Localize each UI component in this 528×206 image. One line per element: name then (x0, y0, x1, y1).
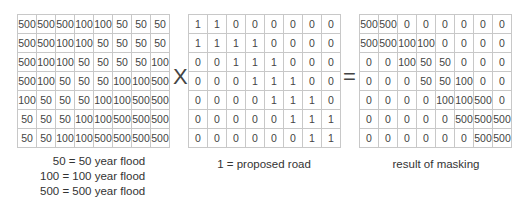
grid-cell: 0 (379, 91, 398, 110)
grid-row: 00001110 (189, 91, 341, 110)
grid-cell: 100 (455, 72, 474, 91)
grid-cell: 500 (379, 15, 398, 34)
grid-cell: 50 (18, 129, 37, 148)
grid-cell: 500 (493, 110, 512, 129)
grid-cell: 50 (56, 91, 75, 110)
grid-cell: 50 (94, 72, 113, 91)
grid-cell: 0 (474, 53, 493, 72)
grid-cell: 100 (94, 110, 113, 129)
grid-cell: 0 (208, 91, 227, 110)
grid-row: 100505050100100500500 (18, 91, 170, 110)
multiply-operator: X (173, 64, 188, 90)
grid-cell: 0 (246, 129, 265, 148)
grid-cell: 0 (493, 72, 512, 91)
grid-cell: 1 (189, 15, 208, 34)
grid-cell: 0 (284, 129, 303, 148)
grid-cell: 1 (265, 53, 284, 72)
grid-cell: 50 (113, 34, 132, 53)
grid-cell: 100 (75, 15, 94, 34)
grid-cell: 0 (398, 91, 417, 110)
grid-cell: 50 (75, 72, 94, 91)
grid-row: 500100505050100100500 (18, 72, 170, 91)
grid-cell: 0 (265, 15, 284, 34)
grid-cell: 100 (398, 34, 417, 53)
grid-cell: 50 (151, 15, 170, 34)
result-caption: result of masking (359, 158, 513, 170)
grid-cell: 0 (189, 110, 208, 129)
mask-caption: 1 = proposed road (188, 158, 340, 170)
grid-cell: 0 (474, 72, 493, 91)
grid-cell: 100 (436, 91, 455, 110)
grid-cell: 0 (417, 15, 436, 34)
grid-cell: 50 (151, 34, 170, 53)
grid-row: 5005001001000000 (360, 34, 512, 53)
grid-cell: 0 (189, 72, 208, 91)
grid-cell: 0 (227, 110, 246, 129)
grid-cell: 1 (246, 34, 265, 53)
grid-cell: 1 (303, 91, 322, 110)
grid-cell: 500 (132, 129, 151, 148)
grid-row: 500500500100100505050 (18, 15, 170, 34)
grid-cell: 50 (132, 53, 151, 72)
grid-cell: 0 (493, 34, 512, 53)
grid-cell: 0 (208, 53, 227, 72)
grid-cell: 500 (151, 110, 170, 129)
grid-cell: 500 (493, 129, 512, 148)
grid-cell: 500 (113, 110, 132, 129)
grid-cell: 1 (208, 15, 227, 34)
grid-cell: 0 (360, 110, 379, 129)
grid-cell: 100 (113, 72, 132, 91)
grid-row: 11000000 (189, 15, 341, 34)
grid-cell: 500 (18, 72, 37, 91)
grid-cell: 0 (379, 72, 398, 91)
grid-cell: 1 (246, 72, 265, 91)
grid-cell: 100 (56, 34, 75, 53)
grid-cell: 1 (227, 34, 246, 53)
grid-cell: 100 (94, 15, 113, 34)
grid-row: 11110000 (189, 34, 341, 53)
grid-cell: 0 (284, 15, 303, 34)
grid-cell: 50 (417, 72, 436, 91)
grid-cell: 500 (151, 72, 170, 91)
grid-cell: 50 (94, 53, 113, 72)
legend-item: 500 = 500 year flood (40, 184, 145, 199)
grid-cell: 500 (113, 129, 132, 148)
grid-cell: 50 (436, 53, 455, 72)
grid-cell: 500 (474, 110, 493, 129)
grid-cell: 0 (246, 15, 265, 34)
grid-cell: 100 (398, 53, 417, 72)
grid-cell: 0 (227, 72, 246, 91)
legend-item: 100 = 100 year flood (40, 169, 145, 184)
grid-cell: 0 (360, 91, 379, 110)
grid-cell: 1 (284, 72, 303, 91)
grid-cell: 100 (75, 129, 94, 148)
grid-cell: 0 (208, 110, 227, 129)
grid-cell: 50 (132, 34, 151, 53)
grid-cell: 0 (398, 110, 417, 129)
grid-cell: 0 (189, 91, 208, 110)
grid-cell: 0 (455, 15, 474, 34)
grid-cell: 0 (360, 129, 379, 148)
grid-row: 50010010050505050100 (18, 53, 170, 72)
grid-cell: 0 (493, 53, 512, 72)
grid-cell: 0 (227, 15, 246, 34)
grid-cell: 100 (75, 34, 94, 53)
grid-cell: 50 (18, 110, 37, 129)
grid-cell: 50 (417, 53, 436, 72)
legend-item: 50 = 50 year flood (40, 154, 145, 169)
grid-cell: 0 (379, 129, 398, 148)
grid-cell: 500 (151, 91, 170, 110)
grid-cell: 500 (18, 15, 37, 34)
grid-cell: 500 (455, 110, 474, 129)
grid-cell: 1 (265, 72, 284, 91)
grid-cell: 0 (322, 15, 341, 34)
grid-cell: 0 (246, 91, 265, 110)
grid-cell: 0 (436, 110, 455, 129)
grid-row: 00000500500500 (360, 110, 512, 129)
grid-cell: 0 (455, 34, 474, 53)
grid-cell: 0 (303, 15, 322, 34)
grid-cell: 500 (132, 110, 151, 129)
grid-cell: 0 (303, 72, 322, 91)
grid-cell: 0 (208, 72, 227, 91)
grid-cell: 100 (455, 91, 474, 110)
